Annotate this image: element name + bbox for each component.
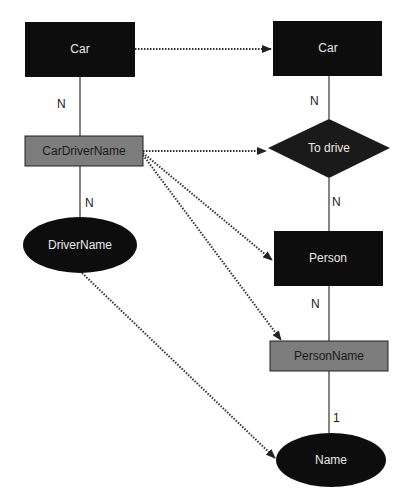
entity-car-right-label: Car xyxy=(318,41,337,55)
attribute-drivername-label: DriverName xyxy=(48,238,112,252)
cardinality-personname-name: 1 xyxy=(333,411,340,425)
mapping-arrow-drivername-name xyxy=(82,273,275,458)
entity-car-right: Car xyxy=(273,21,382,76)
er-diagram: Car N CarDriverName N DriverName Car N T… xyxy=(0,0,408,504)
entity-person-label: Person xyxy=(309,251,347,265)
entity-personname-label: PersonName xyxy=(294,349,364,363)
cardinality-car-cdn: N xyxy=(57,97,66,111)
attribute-drivername: DriverName xyxy=(23,217,137,273)
entity-cardrivername: CarDriverName xyxy=(25,136,143,166)
entity-person: Person xyxy=(274,231,383,286)
cardinality-cdn-driver: N xyxy=(85,196,94,210)
entity-car-left-label: Car xyxy=(70,42,89,56)
entity-personname: PersonName xyxy=(270,341,388,371)
cardinality-car-todrive: N xyxy=(310,94,319,108)
entity-cardrivername-label: CarDriverName xyxy=(42,144,126,158)
mapping-arrow-cardrivername-person xyxy=(143,153,272,260)
relationship-todrive-label: To drive xyxy=(308,141,350,155)
mapping-arrow-cardrivername-personname xyxy=(143,155,281,340)
entity-car-left: Car xyxy=(25,22,135,77)
attribute-name-label: Name xyxy=(315,453,347,467)
relationship-todrive: To drive xyxy=(268,119,390,178)
cardinality-todrive-person: N xyxy=(332,195,341,209)
attribute-name: Name xyxy=(276,433,386,487)
cardinality-person-personname: N xyxy=(311,297,320,311)
